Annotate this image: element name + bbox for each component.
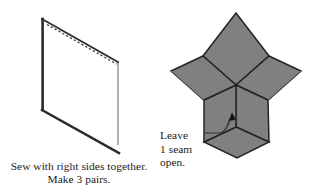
- parallelogram-face: [42, 19, 118, 145]
- annotation-line-2: 1 seam: [160, 143, 220, 157]
- annotation-line-1: Leave: [160, 129, 220, 143]
- annotation-line-3: open.: [160, 156, 220, 170]
- fabric-piece-parallelogram: [42, 19, 119, 153]
- annotation-label: Leave 1 seam open.: [160, 129, 220, 170]
- caption: Sew with right sides together. Make 3 pa…: [0, 160, 158, 186]
- caption-line-2: Make 3 pairs.: [0, 173, 158, 186]
- figure-root: Sew with right sides together. Make 3 pa…: [0, 0, 314, 196]
- caption-line-1: Sew with right sides together.: [0, 160, 158, 173]
- star-center-point: [235, 84, 237, 86]
